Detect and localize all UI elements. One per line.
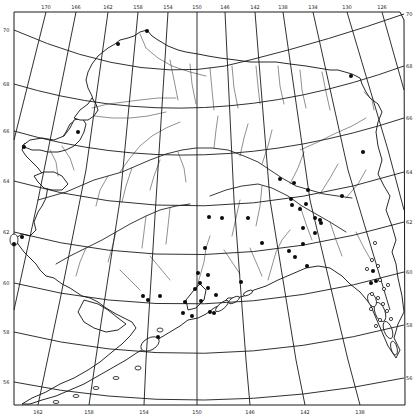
site-marker [220,216,224,220]
site-marker [318,218,322,222]
lon-label-138-bottom: 138 [355,409,365,415]
site-marker [306,188,310,192]
site-marker-open [373,241,376,244]
site-marker [371,269,375,273]
lat-label-64-left: 64 [3,178,9,184]
site-marker [146,298,150,302]
site-marker [301,242,305,246]
lon-label-142: 142 [250,4,260,10]
site-marker [246,216,250,220]
site-marker-open [376,296,379,299]
lat-label-70-left: 70 [3,27,9,33]
lon-label-154: 154 [163,4,173,10]
site-marker-open [382,287,385,290]
site-marker [203,246,207,250]
site-marker [206,286,210,290]
lon-label-134: 134 [308,4,318,10]
alaska-map: 170 166 162 158 154 150 146 142 138 134 … [0,0,418,420]
lat-label-62-left: 62 [3,229,9,235]
lon-label-162: 162 [103,4,113,10]
site-marker [260,241,264,245]
lat-label-64-right: 64 [406,169,412,175]
site-marker [196,271,200,275]
site-marker [20,235,24,239]
lat-label-56-right: 56 [406,375,412,381]
lat-label-66-left: 66 [3,128,9,134]
lon-label-130: 130 [342,4,352,10]
site-marker-open [381,302,384,305]
site-marker-open [378,278,381,281]
site-marker [349,74,353,78]
site-marker [141,294,145,298]
site-marker [181,311,185,315]
lat-label-58-right: 58 [406,322,412,328]
lat-label-62-right: 62 [406,219,412,225]
site-marker [193,287,197,291]
site-marker [12,242,16,246]
site-marker [287,249,291,253]
site-marker-open [386,283,389,286]
site-marker [239,280,243,284]
site-marker [206,273,210,277]
site-marker-open [370,258,373,261]
lon-label-166: 166 [71,4,81,10]
site-marker [290,203,294,207]
site-marker-open [365,267,368,270]
site-marker [301,226,305,230]
lat-label-56-left: 56 [3,379,9,385]
lat-label-60-left: 60 [3,280,9,286]
site-marker [156,335,160,339]
site-marker [374,279,378,283]
lon-label-146: 146 [220,4,230,10]
lon-label-170: 170 [41,4,51,10]
site-marker [212,311,216,315]
site-marker [190,314,194,318]
site-marker [278,177,282,181]
site-marker [289,197,293,201]
lat-label-68-left: 68 [3,81,9,87]
site-marker [76,130,80,134]
lat-label-68-right: 68 [406,63,412,69]
site-marker [304,202,308,206]
top-longitude-labels: 170 166 162 158 154 150 146 142 138 134 … [41,4,387,10]
site-marker [183,300,187,304]
lon-label-146-bottom: 146 [245,409,255,415]
lon-label-162-bottom: 162 [33,409,43,415]
site-marker [305,264,309,268]
right-latitude-labels: 70 68 66 64 62 60 58 56 [406,11,412,381]
left-latitude-labels: 70 68 66 64 62 60 58 56 [3,27,9,385]
site-marker [313,216,317,220]
site-marker [361,150,365,154]
lon-label-158-bottom: 158 [84,409,94,415]
site-marker-open [376,264,379,267]
lat-label-70-right: 70 [406,11,412,17]
site-marker [298,207,302,211]
site-marker [145,29,149,33]
lat-label-66-right: 66 [406,115,412,121]
site-marker [116,42,120,46]
lon-label-150-bottom: 150 [192,409,202,415]
site-marker [207,215,211,219]
lon-label-154-bottom: 154 [139,409,149,415]
lon-label-150: 150 [192,4,202,10]
site-marker-open [369,307,372,310]
site-marker [198,281,202,285]
lon-label-126: 126 [377,4,387,10]
site-marker [340,194,344,198]
site-marker [199,299,203,303]
site-marker-open [378,318,381,321]
lat-label-60-right: 60 [406,269,412,275]
bottom-longitude-labels: 162 158 154 150 146 142 138 [33,409,365,415]
lon-label-142-bottom: 142 [300,409,310,415]
lat-label-58-left: 58 [3,329,9,335]
lon-label-138: 138 [278,4,288,10]
site-marker [293,255,297,259]
site-marker [158,294,162,298]
site-marker [369,281,373,285]
site-marker [313,231,317,235]
site-marker [214,293,218,297]
site-marker [292,181,296,185]
site-marker [22,145,26,149]
site-marker-open [389,317,392,320]
site-marker [208,310,212,314]
